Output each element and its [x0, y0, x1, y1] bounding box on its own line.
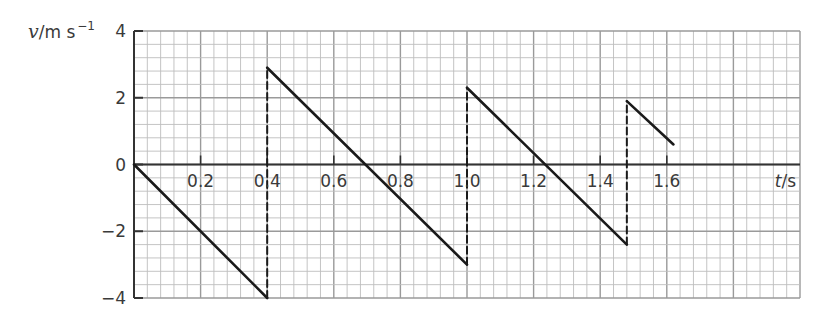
x-tick-label: 0.4 — [254, 171, 281, 191]
x-tick-label: 1.4 — [587, 171, 614, 191]
y-tick-label: 2 — [115, 88, 126, 108]
y-axis-label: v/m s−1 — [28, 19, 95, 42]
x-axis-label: t/s — [775, 171, 796, 191]
x-tick-label: 0.6 — [320, 171, 347, 191]
velocity-time-chart: 0.20.40.60.81.01.21.41.6420−2−4t/sv/m s−… — [0, 0, 835, 316]
x-tick-label: 1.2 — [520, 171, 547, 191]
y-tick-label: 4 — [115, 21, 126, 41]
y-tick-label: 0 — [115, 155, 126, 175]
y-tick-label: −2 — [101, 221, 126, 241]
x-tick-label: 0.2 — [187, 171, 214, 191]
x-tick-label: 1.0 — [453, 171, 480, 191]
x-tick-label: 0.8 — [387, 171, 414, 191]
y-tick-label: −4 — [101, 288, 126, 308]
x-tick-label: 1.6 — [653, 171, 680, 191]
